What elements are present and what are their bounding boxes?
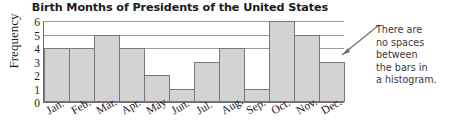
- y-tick-6: 6: [24, 18, 40, 26]
- annotation-line-3: the bars in: [376, 62, 459, 75]
- y-tick-2: 2: [24, 72, 40, 80]
- bar-mar: [94, 35, 120, 103]
- chart-title: Birth Months of Presidents of the United…: [0, 1, 360, 14]
- y-tick-5: 5: [24, 32, 40, 40]
- annotation-line-0: There are: [376, 24, 459, 37]
- bar-nov: [294, 35, 320, 103]
- y-tick-3: 3: [24, 59, 40, 67]
- y-tick-4: 4: [24, 45, 40, 53]
- y-axis-label: Frequency: [6, 3, 22, 79]
- x-axis-labels: Jan.Feb.Mar.Apr.MayJun.Jul.Aug.Sep.Oct.N…: [43, 102, 343, 135]
- bar-feb: [69, 48, 95, 102]
- y-tick-0: 0: [24, 99, 40, 107]
- plot-area: [43, 21, 344, 103]
- annotation-line-1: no spaces: [376, 37, 459, 50]
- bar-jan: [44, 48, 70, 102]
- bar-oct: [269, 21, 295, 102]
- bar-apr: [119, 48, 145, 102]
- annotation-text: There areno spacesbetweenthe bars ina hi…: [376, 24, 459, 87]
- y-axis-ticks: 6 5 4 3 2 1 0: [24, 18, 40, 103]
- histogram-figure: Birth Months of Presidents of the United…: [0, 0, 459, 135]
- bar-jul: [194, 62, 220, 103]
- annotation-line-2: between: [376, 49, 459, 62]
- bar-dec: [319, 62, 345, 103]
- bars-container: [44, 21, 344, 102]
- y-tick-1: 1: [24, 86, 40, 94]
- bar-aug: [219, 48, 245, 102]
- annotation-line-4: a histogram.: [376, 74, 459, 87]
- gridline-6: [44, 21, 344, 22]
